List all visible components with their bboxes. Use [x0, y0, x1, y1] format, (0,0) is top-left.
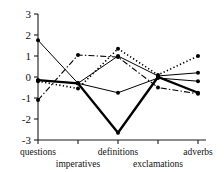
y-axis: 3210-1-2-3 [22, 8, 38, 146]
data-point [116, 54, 120, 58]
series-line-1 [38, 77, 198, 133]
series-markers [36, 38, 200, 134]
data-point [36, 78, 40, 82]
data-point [116, 47, 120, 51]
y-axis-ticks [34, 14, 38, 140]
x-axis-ticks [38, 140, 198, 144]
category-labels: questionsimperativesdefinitionsexclamati… [20, 147, 213, 169]
y-tick-label: -1 [22, 92, 31, 104]
data-point [196, 92, 200, 96]
data-point [76, 81, 80, 85]
data-point [156, 74, 160, 78]
category-label-questions: questions [20, 147, 56, 157]
data-point [116, 131, 120, 135]
data-point [156, 86, 160, 90]
category-label-adverbs: adverbs [183, 147, 213, 157]
data-point [76, 87, 80, 91]
y-axis-tick-labels: 3210-1-2-3 [22, 8, 32, 146]
y-tick-label: 1 [26, 50, 32, 62]
y-tick-label: -2 [22, 113, 31, 125]
y-tick-label: 3 [26, 8, 32, 20]
data-point [196, 71, 200, 75]
data-point [36, 38, 40, 42]
data-point [76, 53, 80, 57]
line-chart: 3210-1-2-3 questionsimperativesdefinitio… [0, 0, 224, 172]
category-label-definitions: definitions [98, 147, 139, 157]
data-point [196, 54, 200, 58]
data-point [116, 91, 120, 95]
data-point [36, 98, 40, 102]
y-tick-label: -3 [22, 134, 32, 146]
chart-screenshot: 3210-1-2-3 questionsimperativesdefinitio… [0, 0, 224, 172]
x-axis [38, 140, 206, 144]
y-tick-label: 2 [26, 29, 32, 41]
data-point [196, 79, 200, 83]
category-label-exclamations: exclamations [133, 159, 183, 169]
category-label-imperatives: imperatives [56, 159, 101, 169]
y-tick-label: 0 [26, 71, 32, 83]
